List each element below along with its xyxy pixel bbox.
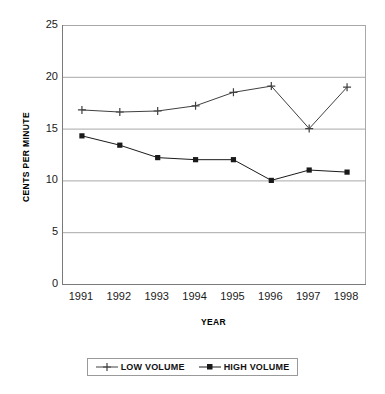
x-tick-label: 1997 xyxy=(288,290,328,302)
x-tick-label: 1998 xyxy=(326,290,366,302)
legend-label: LOW VOLUME xyxy=(121,362,185,372)
data-point xyxy=(192,102,200,110)
x-tick-label: 1994 xyxy=(175,290,215,302)
series-line xyxy=(82,136,347,181)
data-point xyxy=(116,108,124,116)
data-point xyxy=(117,143,122,148)
y-tick-label: 0 xyxy=(36,278,58,289)
x-tick-label: 1996 xyxy=(250,290,290,302)
x-tick-label: 1991 xyxy=(61,290,101,302)
y-tick-label: 15 xyxy=(36,123,58,134)
plot-area xyxy=(62,25,366,285)
plot-svg xyxy=(63,25,366,284)
series-line xyxy=(82,86,347,128)
plus-marker-icon xyxy=(96,362,118,372)
data-point xyxy=(269,178,274,183)
legend-box: LOW VOLUMEHIGH VOLUME xyxy=(87,358,299,376)
data-point xyxy=(79,133,84,138)
data-point xyxy=(307,167,312,172)
data-point xyxy=(344,170,349,175)
series-low-volume xyxy=(78,82,351,132)
x-tick-label: 1995 xyxy=(212,290,252,302)
legend: LOW VOLUMEHIGH VOLUME xyxy=(0,358,385,376)
legend-label: HIGH VOLUME xyxy=(224,362,290,372)
data-point xyxy=(231,157,236,162)
y-axis-tick-labels: 0510152025 xyxy=(30,0,58,394)
data-point xyxy=(229,88,237,96)
x-axis-title: YEAR xyxy=(62,317,365,327)
y-tick-label: 25 xyxy=(36,19,58,30)
y-tick-label: 20 xyxy=(36,71,58,82)
data-point xyxy=(154,107,162,115)
data-point xyxy=(193,157,198,162)
legend-item-low-volume[interactable]: LOW VOLUME xyxy=(96,362,185,372)
series-high-volume xyxy=(79,133,349,183)
data-point xyxy=(155,155,160,160)
x-axis-tick-labels: 19911992199319941995199619971998 xyxy=(62,290,365,306)
line-chart: CENTS PER MINUTE 0510152025 199119921993… xyxy=(0,0,385,394)
legend-item-high-volume[interactable]: HIGH VOLUME xyxy=(199,362,290,372)
x-tick-label: 1992 xyxy=(99,290,139,302)
y-tick-label: 5 xyxy=(36,226,58,237)
data-point xyxy=(78,106,86,114)
square-marker-icon xyxy=(199,362,221,372)
x-tick-label: 1993 xyxy=(137,290,177,302)
y-tick-label: 10 xyxy=(36,174,58,185)
